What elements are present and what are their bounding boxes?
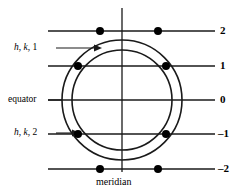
dot-lm2-left xyxy=(96,165,104,173)
hk1-label: h, k, 1 xyxy=(14,43,37,53)
axis-label-minus-1: –1 xyxy=(218,128,229,139)
equator-label: equator xyxy=(8,95,37,105)
dot-l2-right xyxy=(154,27,162,35)
meridian-label: meridian xyxy=(96,177,132,187)
dot-l2-left xyxy=(96,27,104,35)
dot-l1-right xyxy=(162,62,170,70)
axis-label-minus-2: –2 xyxy=(218,163,229,174)
axis-label-0: 0 xyxy=(220,94,226,105)
hk2-label: h, k, 2 xyxy=(14,128,37,138)
axis-label-1: 1 xyxy=(220,60,226,71)
axis-label-2: 2 xyxy=(220,25,226,36)
dot-lm1-right xyxy=(162,130,170,138)
hk2-l-value: 2 xyxy=(32,127,37,137)
dot-l1-left xyxy=(74,62,82,70)
dot-lm2-right xyxy=(154,165,162,173)
hk1-l-value: 1 xyxy=(32,42,37,52)
dot-lm1-left xyxy=(74,130,82,138)
